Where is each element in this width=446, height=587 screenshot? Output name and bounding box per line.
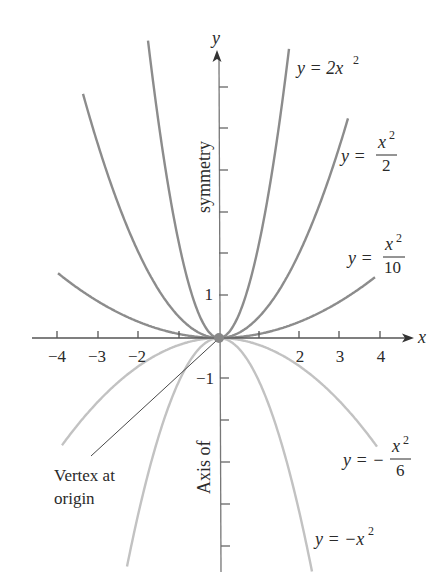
svg-text:y = 2x: y = 2x [295, 58, 343, 78]
parabola-curve [58, 273, 375, 338]
equation-2x2: y = 2x 2 [295, 53, 359, 78]
svg-text:2: 2 [403, 433, 409, 447]
x-tick-label: −3 [88, 347, 106, 366]
svg-text:y = −x: y = −x [313, 529, 364, 549]
x-tick-label: −4 [48, 347, 67, 366]
svg-text:2: 2 [353, 53, 359, 67]
svg-text:x: x [377, 132, 386, 152]
svg-text:2: 2 [382, 156, 391, 175]
equation-x2-over-2: y = x 2 2 [339, 128, 397, 175]
vertex-annotation-line1: Vertex at [54, 466, 115, 485]
y-tick-label: 1 [205, 285, 214, 304]
x-tick-label: 2 [296, 347, 305, 366]
equation-x2-over-10: y = x 2 10 [346, 231, 405, 277]
vertex-leader-line [91, 341, 216, 456]
x-axis-label: x [417, 327, 426, 347]
vertex-dot [214, 333, 224, 343]
vertex-annotation-line2: origin [54, 489, 95, 508]
y-axis [219, 60, 221, 572]
equation-neg-x2: y = −x 2 [313, 524, 374, 549]
svg-text:2: 2 [396, 231, 402, 245]
x-tick-label: 4 [377, 347, 386, 366]
parabola-curve [83, 94, 348, 338]
axis-of-label: Axis of [194, 440, 214, 494]
equation-neg-x2-over-6: y = − x 2 6 [341, 433, 411, 480]
curves-group [58, 41, 377, 572]
svg-text:6: 6 [396, 461, 405, 480]
y-axis-arrow-icon [213, 50, 222, 62]
y-axis-label: y [210, 28, 220, 48]
svg-text:10: 10 [384, 258, 401, 277]
svg-text:x: x [391, 436, 400, 456]
svg-text:y =: y = [346, 248, 373, 268]
parabola-curve [127, 338, 312, 572]
svg-text:x: x [384, 234, 393, 254]
y-tick-label: −1 [196, 369, 214, 388]
svg-text:y = −: y = − [341, 450, 384, 470]
svg-text:2: 2 [368, 524, 374, 538]
symmetry-label: symmetry [194, 141, 214, 213]
x-tick-label: 3 [336, 347, 345, 366]
x-tick-label: −2 [128, 347, 146, 366]
svg-text:2: 2 [389, 128, 395, 142]
svg-text:y =: y = [339, 146, 366, 166]
parabola-family-figure: −4 −3 −2 2 3 4 1 −1 x y symmetry Axis of… [0, 0, 446, 587]
